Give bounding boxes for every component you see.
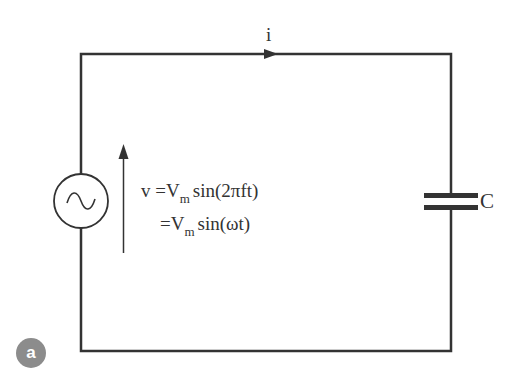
- equation-line-1: v =Vmsin(2πft): [141, 180, 258, 204]
- equation-subscript: m: [180, 191, 190, 206]
- current-arrow-icon: [264, 49, 278, 59]
- circuit-wires: [81, 54, 451, 351]
- equation-rhs: sin(ωt): [198, 213, 251, 234]
- equation-lhs: v: [141, 180, 151, 201]
- circuit-diagram: [0, 0, 532, 389]
- equation-equals: =: [160, 213, 171, 234]
- equation-equals: =: [155, 180, 166, 201]
- equation-var: V: [166, 180, 180, 201]
- current-label: i: [266, 24, 271, 46]
- wire-top-left: [81, 54, 451, 195]
- capacitor-label: C: [480, 189, 494, 214]
- panel-badge: a: [16, 338, 46, 368]
- equation-rhs: sin(2πft): [193, 180, 259, 201]
- equation-var: V: [171, 213, 185, 234]
- voltage-arrow-icon: [119, 144, 129, 253]
- equation-line-2: =Vmsin(ωt): [160, 213, 250, 237]
- equation-subscript: m: [184, 224, 194, 239]
- wire-bottom: [81, 207, 451, 351]
- ac-source-icon: [54, 174, 108, 228]
- capacitor-icon: [424, 193, 478, 210]
